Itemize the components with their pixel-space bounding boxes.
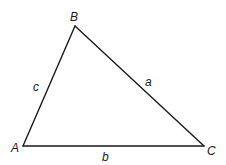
triangle-diagram: B A C c a b [0, 0, 226, 165]
side-label-b: b [102, 150, 109, 164]
vertex-label-c: C [207, 144, 216, 158]
vertex-label-a: A [10, 141, 19, 155]
side-c [23, 26, 75, 146]
side-label-c: c [33, 80, 39, 94]
side-label-a: a [145, 75, 152, 89]
side-a [75, 26, 204, 146]
vertex-label-b: B [70, 10, 78, 24]
